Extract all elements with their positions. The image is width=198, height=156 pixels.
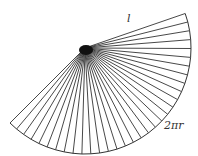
sector-diagram <box>0 0 198 156</box>
radial-line <box>85 48 100 153</box>
radial-line <box>85 48 173 107</box>
arc-length-label: 2πr <box>164 120 184 131</box>
slant-height-label: l <box>127 13 131 24</box>
radial-line <box>85 48 191 49</box>
radial-line <box>85 48 155 127</box>
radial-lines <box>10 14 191 155</box>
radial-line <box>85 14 185 49</box>
radial-line <box>24 48 85 134</box>
radial-line <box>17 48 85 129</box>
radial-line <box>85 31 190 48</box>
radial-line <box>85 48 125 146</box>
apex-point <box>79 45 93 55</box>
radial-line <box>85 48 191 57</box>
